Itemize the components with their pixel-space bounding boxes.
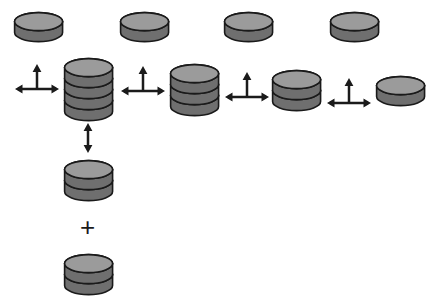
stack-tetramer <box>62 56 115 123</box>
stack-monomer <box>374 74 427 108</box>
monomer-2 <box>118 10 171 44</box>
disc-stack-icon <box>374 74 427 108</box>
disc-stack-icon <box>222 10 275 44</box>
stack-dimer <box>270 68 323 113</box>
disc-stack-icon <box>12 10 65 44</box>
monomer-3 <box>222 10 275 44</box>
equilibrium-arrow-4 <box>326 76 372 112</box>
branch-dimer-upper <box>62 158 115 203</box>
disc-stack-icon <box>328 10 381 44</box>
equilibrium-arrow-icon <box>14 62 60 98</box>
plus-operator: + <box>80 214 95 240</box>
vertical-double-arrow-icon <box>80 122 96 154</box>
equilibrium-arrow-icon <box>224 70 270 106</box>
equilibrium-arrow-icon <box>326 76 372 112</box>
stack-trimer <box>168 62 221 118</box>
disc-stack-icon <box>62 158 115 203</box>
vertical-equilibrium-arrow <box>80 122 96 154</box>
monomer-4 <box>328 10 381 44</box>
branch-dimer-lower <box>62 252 115 297</box>
equilibrium-arrow-3 <box>224 70 270 106</box>
equilibrium-arrow-2 <box>120 64 166 100</box>
equilibrium-arrow-icon <box>120 64 166 100</box>
disc-stack-icon <box>270 68 323 113</box>
monomer-1 <box>12 10 65 44</box>
disc-stack-icon <box>168 62 221 118</box>
disc-stack-icon <box>62 56 115 123</box>
disc-stack-icon <box>62 252 115 297</box>
diagram-canvas: + <box>0 0 430 299</box>
equilibrium-arrow-1 <box>14 62 60 98</box>
disc-stack-icon <box>118 10 171 44</box>
